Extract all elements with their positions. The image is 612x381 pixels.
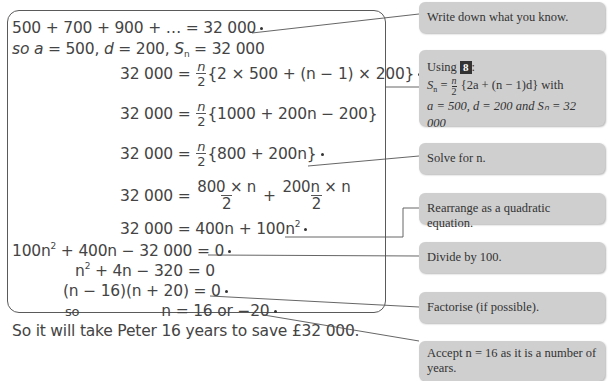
callout-factorise: Factorise (if possible).: [419, 292, 605, 323]
callout-using-formula: Using 8: Sn = n2 {2a + (n − 1)d} with a …: [419, 50, 605, 126]
formula-reference-badge: 8: [460, 61, 472, 74]
callout-rearrange: Rearrange as a quadratic equation.: [419, 193, 605, 224]
callout-accept-solution: Accept n = 16 as it is a number of years…: [419, 341, 605, 381]
callout-solve: Solve for n.: [419, 143, 605, 174]
callout-divide: Divide by 100.: [419, 242, 605, 273]
callout-write-down: Write down what you know.: [419, 2, 605, 33]
